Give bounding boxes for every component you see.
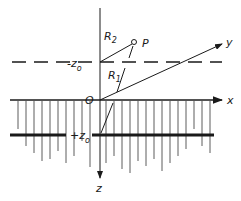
point-p-marker <box>132 40 137 45</box>
y-axis <box>100 44 222 100</box>
plus-z0-label: +zo <box>70 129 90 145</box>
origin-label: O <box>85 94 94 107</box>
medium-hatching <box>18 101 210 173</box>
r1-line-bottom <box>101 103 113 133</box>
point-p-label: P <box>142 37 149 50</box>
r1-label: R1 <box>108 69 121 84</box>
r2-label: R2 <box>104 30 117 45</box>
image-method-diagram: P R2 R1 -zo +zo O x y z <box>0 0 241 201</box>
z-axis-label: z <box>95 182 102 195</box>
y-axis-label: y <box>225 36 233 49</box>
r2-line <box>100 44 132 62</box>
minus-z0-label: -zo <box>67 57 82 73</box>
r1-line-top <box>129 46 133 58</box>
x-axis-label: x <box>226 94 234 107</box>
